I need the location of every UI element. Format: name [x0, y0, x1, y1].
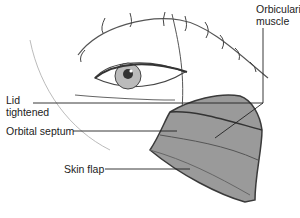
eye	[95, 63, 187, 89]
label-line-1: Lid	[6, 94, 49, 106]
skin-flap-shape	[150, 95, 262, 202]
eyelid-surgery-diagram: Orbicularis muscle Lid tightened Orbital…	[0, 0, 300, 218]
sutures	[81, 12, 257, 72]
label-line-1: Orbicularis	[256, 3, 300, 15]
label-orbital-septum: Orbital septum	[6, 125, 74, 137]
label-orbicularis-muscle: Orbicularis muscle	[256, 3, 300, 27]
label-lid-tightened: Lid tightened	[6, 94, 49, 118]
label-line-2: muscle	[256, 15, 300, 27]
label-skin-flap: Skin flap	[64, 163, 104, 175]
label-line-2: tightened	[6, 106, 49, 118]
